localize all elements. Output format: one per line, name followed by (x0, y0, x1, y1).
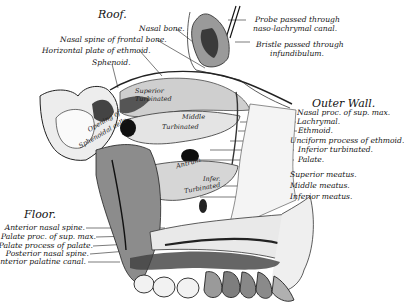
label-anterior-nasal-spine: Anterior nasal spine. (5, 223, 85, 232)
label-palate-proc-sup-max: Palate proc. of sup. max. (1, 232, 96, 241)
label-inferior-meatus: Inferior meatus. (290, 192, 352, 201)
label-horizontal-plate-ethmoid: Horizontal plate of ethmoid. (42, 46, 151, 55)
label-anterior-palatine-canal: Anterior palatine canal. (0, 257, 86, 266)
heading-floor: Floor. (24, 209, 56, 221)
label-nasal-spine-frontal: Nasal spine of frontal bone. (60, 35, 167, 44)
label-middle-turb-1: Middle (182, 114, 205, 121)
label-probe-line2: naso-lachrymal canal. (253, 24, 337, 33)
probe (226, 6, 240, 38)
label-inferior-turbinated: Inferior turbinated. (298, 145, 373, 154)
label-ethmoid: Ethmoid. (298, 126, 333, 135)
label-lachrymal: Lachrymal. (297, 117, 340, 126)
heading-roof: Roof. (98, 9, 127, 21)
label-nasal-bone: Nasal bone. (139, 24, 185, 33)
label-unciform-process: Unciform process of ethmoid. (290, 136, 404, 145)
label-sphenoid: Sphenoid. (92, 58, 131, 67)
label-superior-turb-1: Superior (135, 88, 164, 95)
label-palate: Palate. (298, 155, 324, 164)
label-bristle-line1: Bristle passed through (256, 40, 344, 49)
label-nasal-proc-sup-max: Nasal proc. of sup. max. (297, 108, 390, 117)
label-superior-meatus: Superior meatus. (290, 170, 357, 179)
label-bristle-line2: infundibulum. (270, 49, 324, 58)
teeth-row (134, 272, 294, 302)
label-probe-line1: Probe passed through (255, 15, 340, 24)
label-superior-turb-2: Turbinated (135, 96, 172, 103)
label-middle-turb-2: Turbinated (162, 124, 199, 131)
label-middle-meatus: Middle meatus. (290, 181, 350, 190)
